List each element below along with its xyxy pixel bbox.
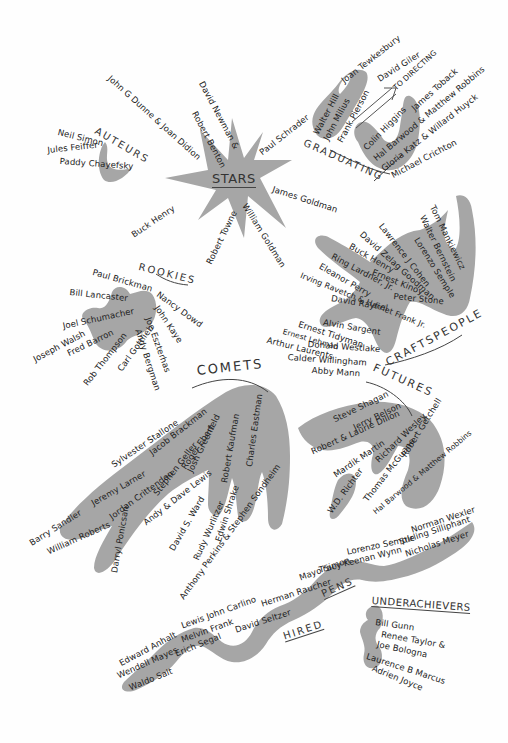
screenwriters-map: STARS AUTEURS GRADUATING TO DIRECTING CR… <box>0 0 508 743</box>
group-title-stars: STARS <box>212 172 256 188</box>
